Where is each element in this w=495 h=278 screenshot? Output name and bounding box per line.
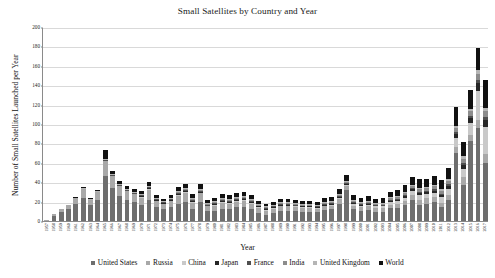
bar-column[interactable]: 1963 — [88, 198, 93, 221]
bar-column[interactable]: 1984 — [242, 192, 247, 221]
bar-column[interactable]: 1964 — [95, 190, 100, 221]
legend-item[interactable]: United Kingdom — [313, 258, 369, 267]
bar-column[interactable]: 1967 — [117, 181, 122, 221]
bar-column[interactable]: 1980 — [212, 198, 217, 221]
bar-segment — [44, 220, 49, 221]
y-tick-label: 120 — [32, 103, 40, 108]
bar-column[interactable]: 2016 — [476, 48, 481, 221]
bar-segment — [242, 201, 247, 208]
bar-column[interactable]: 1977 — [190, 194, 195, 221]
legend-label: India — [289, 258, 304, 267]
x-tick-label: 1996 — [330, 223, 334, 232]
bar-column[interactable]: 1991 — [293, 200, 298, 221]
bar-column[interactable]: 2005 — [395, 190, 400, 221]
x-tick-label: 1969 — [132, 223, 136, 232]
bar-column[interactable]: 1973 — [161, 199, 166, 221]
bar-column[interactable]: 1989 — [278, 199, 283, 221]
bar-column[interactable]: 1972 — [154, 195, 159, 221]
bar-segment — [103, 161, 108, 177]
bar-column[interactable]: 1986 — [256, 201, 261, 221]
bar-column[interactable]: 2002 — [373, 199, 378, 221]
bar-segment — [461, 169, 466, 178]
bar-segment — [461, 177, 466, 185]
bar-segment — [117, 186, 122, 196]
legend-item[interactable]: India — [283, 258, 305, 267]
x-tick-label: 1972 — [154, 223, 158, 232]
x-tick-label: 1979 — [205, 223, 209, 232]
bar-column[interactable]: 1957 — [44, 220, 49, 221]
x-tick-label: 2000 — [359, 223, 363, 232]
bar-column[interactable]: 1966 — [110, 171, 115, 221]
bar-segment — [432, 202, 437, 221]
bar-column[interactable]: 1975 — [176, 187, 181, 221]
bar-column[interactable]: 1992 — [300, 201, 305, 221]
bar-column[interactable]: 1978 — [198, 184, 203, 221]
bar-segment — [439, 180, 444, 189]
bar-column[interactable]: 1988 — [271, 202, 276, 221]
bar-column[interactable]: 1976 — [183, 184, 188, 221]
bar-column[interactable]: 1996 — [329, 197, 334, 221]
bar-column[interactable]: 1961 — [73, 197, 78, 221]
bar-segment — [483, 80, 488, 107]
bar-column[interactable]: 2017 — [483, 80, 488, 221]
legend-item[interactable]: United States — [91, 258, 137, 267]
bar-column[interactable]: 2003 — [381, 198, 386, 221]
bar-column[interactable]: 1968 — [125, 186, 130, 221]
bar-column[interactable]: 1958 — [52, 214, 57, 221]
x-tick-label: 2015 — [469, 223, 473, 232]
bar-column[interactable]: 1971 — [147, 182, 152, 221]
bar-column[interactable]: 1993 — [307, 201, 312, 221]
bar-column[interactable]: 1969 — [132, 189, 137, 221]
x-tick-label: 1957 — [44, 223, 48, 232]
bar-column[interactable]: 2014 — [461, 142, 466, 221]
bar-column[interactable]: 2012 — [446, 168, 451, 221]
bar-column[interactable]: 1985 — [249, 195, 254, 221]
bar-segment — [242, 207, 247, 221]
bar-column[interactable]: 2008 — [417, 179, 422, 221]
bar-column[interactable]: 1998 — [344, 175, 349, 221]
legend-item[interactable]: France — [247, 258, 274, 267]
bar-column[interactable]: 2007 — [410, 177, 415, 221]
bar-column[interactable]: 2009 — [424, 179, 429, 221]
bar-column[interactable]: 1960 — [66, 205, 71, 221]
bar-segment — [468, 123, 473, 135]
bar-column[interactable]: 1970 — [139, 191, 144, 221]
bar-column[interactable]: 1959 — [59, 209, 64, 221]
x-tick-label: 1960 — [66, 223, 70, 232]
bar-column[interactable]: 1981 — [220, 194, 225, 221]
bar-column[interactable]: 2004 — [388, 192, 393, 221]
bar-column[interactable]: 1974 — [169, 195, 174, 221]
bar-column[interactable]: 1994 — [315, 202, 320, 221]
legend-item[interactable]: China — [182, 258, 206, 267]
bar-column[interactable]: 2001 — [366, 196, 371, 221]
bar-column[interactable]: 1965 — [103, 150, 108, 221]
x-tick-label: 1975 — [176, 223, 180, 232]
bar-segment — [403, 185, 408, 192]
y-tick-label: 140 — [32, 84, 40, 89]
legend-item[interactable]: Russia — [146, 258, 172, 267]
x-tick-label: 2012 — [447, 223, 451, 232]
bar-segment — [52, 216, 57, 221]
bar-column[interactable]: 1995 — [322, 198, 327, 221]
bar-column[interactable]: 2006 — [403, 185, 408, 221]
bar-segment — [88, 205, 93, 221]
x-tick-label: 1990 — [286, 223, 290, 232]
bar-column[interactable]: 1962 — [81, 187, 86, 221]
bar-column[interactable]: 1999 — [351, 195, 356, 221]
bar-column[interactable]: 1987 — [264, 204, 269, 221]
bar-column[interactable]: 2000 — [359, 198, 364, 221]
bar-column[interactable]: 1983 — [234, 193, 239, 221]
bar-column[interactable]: 2011 — [439, 180, 444, 221]
bar-column[interactable]: 2013 — [454, 107, 459, 221]
bar-segment — [461, 185, 466, 221]
bar-column[interactable]: 2015 — [468, 90, 473, 221]
legend-item[interactable]: Japan — [215, 258, 238, 267]
bar-column[interactable]: 1997 — [337, 189, 342, 221]
bar-column[interactable]: 1979 — [205, 200, 210, 221]
bar-column[interactable]: 2010 — [432, 176, 437, 221]
bar-column[interactable]: 1982 — [227, 195, 232, 221]
bar-segment — [220, 209, 225, 221]
bar-segment — [446, 168, 451, 180]
bar-column[interactable]: 1990 — [286, 199, 291, 221]
legend-item[interactable]: World — [379, 258, 404, 267]
